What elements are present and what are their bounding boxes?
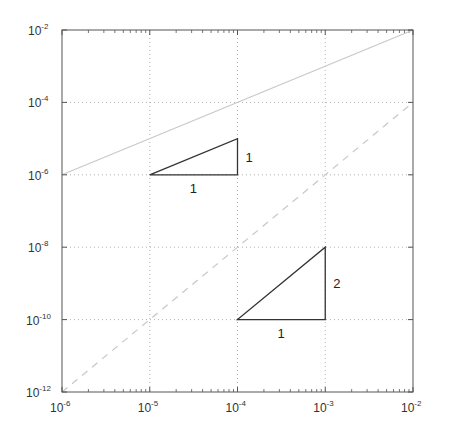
y-tick-label: 10-4 (28, 94, 49, 110)
x-axis-ticks: 10-610-510-410-310-2 (50, 30, 422, 415)
x-tick-exponent: -5 (151, 399, 159, 408)
y-tick-exponent: -12 (39, 384, 51, 393)
y-tick-exponent: -6 (41, 167, 49, 176)
x-tick-label: 10-5 (138, 399, 159, 415)
slope-triangles: 1112 (150, 139, 341, 341)
slope-triangle-1 (150, 139, 238, 175)
x-tick-label: 10-6 (50, 399, 71, 415)
y-tick-label: 10-2 (28, 22, 49, 38)
run-label: 1 (277, 326, 284, 341)
x-tick-exponent: -6 (63, 399, 71, 408)
rise-label: 1 (246, 150, 253, 165)
y-tick-exponent: -8 (41, 239, 49, 248)
x-tick-exponent: -4 (239, 399, 247, 408)
x-tick-exponent: -3 (327, 399, 335, 408)
slope-triangle-2 (238, 247, 326, 319)
x-tick-exponent: -2 (414, 399, 422, 408)
y-tick-exponent: -4 (41, 94, 49, 103)
x-tick-label: 10-3 (313, 399, 334, 415)
y-tick-label: 10-10 (26, 312, 51, 328)
run-label: 1 (190, 181, 197, 196)
x-tick-label: 10-4 (226, 399, 247, 415)
grid-lines (62, 30, 413, 392)
y-tick-label: 10-8 (28, 239, 49, 255)
rise-label: 2 (333, 276, 340, 291)
loglog-chart: 1112 10-610-510-410-310-2 10-210-410-610… (0, 0, 449, 429)
x-tick-label: 10-2 (401, 399, 422, 415)
y-tick-label: 10-12 (26, 384, 51, 400)
y-tick-exponent: -2 (41, 22, 49, 31)
y-tick-exponent: -10 (39, 312, 51, 321)
y-tick-label: 10-6 (28, 167, 49, 183)
minor-ticks (88, 30, 409, 392)
y-axis-ticks: 10-210-410-610-810-1010-12 (26, 22, 413, 400)
